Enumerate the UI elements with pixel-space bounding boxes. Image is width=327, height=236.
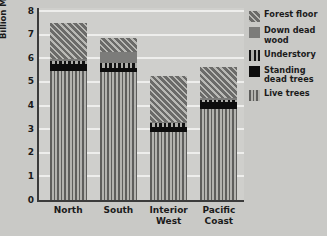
legend-item-standing-dead-trees[interactable]: Standing dead trees <box>249 66 325 85</box>
x-axis-tick-label: South <box>90 205 147 216</box>
legend-swatch-icon <box>249 66 260 77</box>
y-axis-title: Billion Metric Tons <box>0 0 8 56</box>
chart-screenshot: Billion Metric Tons 876543210 NorthSouth… <box>0 0 327 236</box>
legend-item-understory[interactable]: Understory <box>249 50 325 62</box>
legend-swatch-icon <box>249 27 260 38</box>
legend-swatch-icon <box>249 11 260 22</box>
y-axis-tick-label: 6 <box>20 54 34 63</box>
y-axis-tick-label: 7 <box>20 30 34 39</box>
legend-item-label: Understory <box>264 50 316 60</box>
legend-swatch-icon <box>249 90 260 101</box>
y-axis-tick-label: 1 <box>20 172 34 181</box>
legend-item-label: Standing dead trees <box>264 66 314 85</box>
y-axis-tick-label: 8 <box>20 7 34 16</box>
y-axis-tick-label: 5 <box>20 77 34 86</box>
x-axis-tick-label: Interior West <box>140 205 197 226</box>
y-axis-tick-label: 3 <box>20 125 34 134</box>
y-axis-tick-label: 0 <box>20 196 34 205</box>
plot-area <box>37 8 244 202</box>
x-axis-tick-label: North <box>40 205 97 216</box>
legend-item-label: Live trees <box>264 89 310 99</box>
legend-item-label: Down dead wood <box>264 26 315 45</box>
y-axis-tick-label: 4 <box>20 101 34 110</box>
plot-frame <box>37 8 244 202</box>
y-axis-tick-labels: 876543210 <box>18 8 34 202</box>
legend-item-live-trees[interactable]: Live trees <box>249 89 325 101</box>
y-axis-tick-label: 2 <box>20 148 34 157</box>
legend-swatch-icon <box>249 50 260 61</box>
legend-item-label: Forest floor <box>264 10 317 20</box>
legend-item-down-dead-wood[interactable]: Down dead wood <box>249 26 325 45</box>
legend-item-forest-floor[interactable]: Forest floor <box>249 10 325 22</box>
chart-legend: Forest floorDown dead woodUnderstoryStan… <box>249 10 325 105</box>
x-axis-tick-label: Pacific Coast <box>190 205 247 226</box>
